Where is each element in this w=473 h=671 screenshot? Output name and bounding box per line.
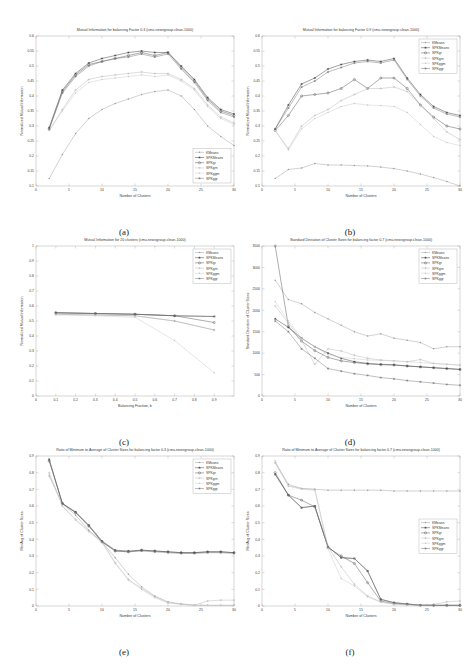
- x-tick-label: 0: [35, 608, 37, 612]
- data-marker: [274, 178, 276, 180]
- data-marker: [301, 128, 303, 130]
- data-marker: [327, 164, 329, 166]
- legend-label: SPKMeans: [432, 46, 449, 50]
- series-SPKggr: [274, 320, 461, 386]
- data-marker: [194, 605, 196, 607]
- data-marker: [354, 489, 356, 491]
- legend-label: SPKggm: [432, 542, 446, 546]
- legend-label: SPKgr: [432, 51, 443, 55]
- x-tick-label: 20: [392, 608, 396, 612]
- x-tick-label: 0.3: [93, 398, 98, 402]
- x-tick-label: 25: [425, 188, 429, 192]
- x-tick-label: 20: [166, 608, 170, 612]
- y-tick-label: 0: [258, 604, 260, 608]
- legend-label: SPKggm: [432, 62, 446, 66]
- data-marker: [459, 364, 461, 366]
- data-marker: [314, 346, 316, 348]
- y-tick-label: 0.1: [255, 588, 260, 592]
- legend-label: SPKMeans: [206, 256, 223, 260]
- panel-e: Ratio of Minimum to Average of Cluster S…: [6, 434, 242, 657]
- data-marker: [406, 170, 408, 172]
- data-marker: [459, 185, 461, 187]
- series-line: [275, 87, 460, 149]
- data-marker: [62, 154, 64, 156]
- chart-title: Mutual Information for balancing Factor …: [303, 28, 419, 32]
- x-axis-label: Balancing Fraction, b: [118, 404, 152, 408]
- legend-label: SPKgr: [206, 261, 217, 265]
- x-axis-label: Number of Clusters: [346, 404, 377, 408]
- data-marker: [393, 106, 395, 108]
- data-marker: [327, 489, 329, 491]
- legend: KMeansSPKMeansSPKgrSPKgrnSPKggmSPKggr: [419, 39, 457, 73]
- y-tick-label: 0.5: [29, 521, 34, 525]
- series-SPKggm: [274, 103, 460, 151]
- y-tick-label: 0.3: [255, 124, 260, 128]
- data-marker: [154, 91, 156, 93]
- panel-e-caption: (e): [6, 647, 242, 657]
- legend-label: SPKMeans: [206, 466, 223, 470]
- x-tick-label: 30: [458, 188, 462, 192]
- y-tick-label: 0.7: [29, 289, 34, 293]
- y-tick-label: 0.4: [255, 538, 260, 542]
- legend-label: SPKgr: [206, 471, 217, 475]
- y-tick-label: 0.1: [29, 184, 34, 188]
- y-tick-label: 0.2: [29, 364, 34, 368]
- data-marker: [393, 360, 395, 362]
- data-marker: [340, 489, 342, 491]
- data-marker: [128, 76, 129, 78]
- data-marker: [274, 301, 276, 303]
- y-axis-label: Normalized Mutual Information: [20, 297, 24, 346]
- series-SPKgr: [48, 51, 235, 130]
- x-tick-label: 10: [326, 608, 330, 612]
- series-line: [49, 72, 234, 131]
- data-marker: [425, 63, 427, 65]
- x-tick-label: 10: [326, 188, 330, 192]
- y-axis-label: Normalized Mutual Information: [20, 87, 24, 136]
- y-axis-label: Min/Avg of Cluster Sizes: [20, 511, 24, 550]
- series-line: [49, 474, 234, 605]
- legend-label: KMeans: [206, 461, 219, 465]
- data-marker: [207, 125, 209, 127]
- data-marker: [301, 489, 303, 491]
- data-marker: [367, 165, 369, 167]
- legend: KMeansSPKMeansSPKgrSPKgrnSPKggmSPKggr: [193, 149, 231, 183]
- data-marker: [75, 92, 77, 94]
- panel-c: Mutual Information for 20 clusters (cmu-…: [6, 224, 242, 447]
- data-marker: [194, 109, 196, 111]
- data-marker: [88, 82, 90, 84]
- data-marker: [380, 360, 382, 362]
- y-tick-label: 0.15: [27, 169, 34, 173]
- data-marker: [75, 514, 77, 516]
- data-marker: [340, 106, 342, 108]
- panel-f: Ratio of Minimum to Average of Cluster S…: [232, 434, 468, 657]
- y-axis-label: Standard Deviation of Cluster Sizes: [246, 292, 250, 349]
- data-marker: [220, 136, 222, 138]
- x-tick-label: 0.7: [172, 398, 177, 402]
- y-tick-label: 0.45: [253, 79, 260, 83]
- x-tick-label: 25: [199, 188, 203, 192]
- figure-sheet: Mutual Information for balancing Factor …: [0, 0, 473, 671]
- series-line: [275, 302, 460, 365]
- data-marker: [425, 543, 427, 545]
- y-tick-label: 0: [32, 604, 34, 608]
- data-marker: [354, 358, 356, 360]
- y-tick-label: 0.15: [253, 169, 260, 173]
- data-marker: [425, 42, 427, 44]
- data-marker: [406, 112, 408, 114]
- series-SPKggm: [274, 301, 460, 366]
- series-line: [56, 315, 214, 373]
- x-axis-label: Number of Clusters: [120, 194, 151, 198]
- data-marker: [367, 104, 369, 106]
- data-marker: [367, 335, 369, 337]
- series-KMeans: [48, 475, 234, 606]
- panel-e-plot: Ratio of Minimum to Average of Cluster S…: [6, 434, 242, 639]
- data-marker: [425, 273, 427, 275]
- data-marker: [380, 166, 382, 168]
- data-marker: [128, 579, 129, 581]
- data-marker: [406, 340, 408, 342]
- y-tick-label: 0.8: [255, 471, 260, 475]
- data-marker: [167, 74, 169, 76]
- data-marker: [314, 489, 316, 491]
- panel-d: Standard Deviation of Cluster Sizes for …: [232, 224, 468, 447]
- data-marker: [459, 346, 461, 348]
